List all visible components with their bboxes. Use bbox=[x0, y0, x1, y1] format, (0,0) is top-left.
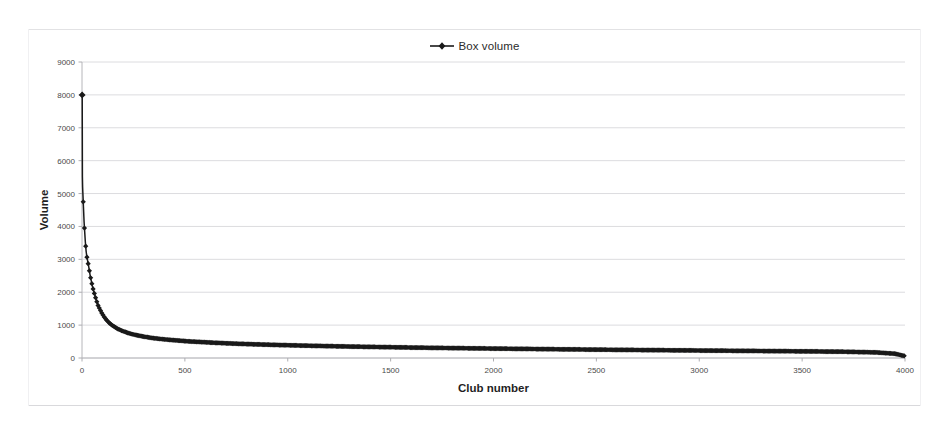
chart-gridlines bbox=[82, 62, 905, 358]
y-tick-label: 8000 bbox=[57, 91, 75, 100]
x-tick-label: 3000 bbox=[690, 366, 708, 375]
y-tick-label: 5000 bbox=[57, 190, 75, 199]
y-tick-label: 2000 bbox=[57, 288, 75, 297]
x-tick-label: 2000 bbox=[485, 366, 503, 375]
y-tick-label: 6000 bbox=[57, 157, 75, 166]
chart-x-tick-labels: 05001000150020002500300035004000 bbox=[80, 366, 915, 375]
x-tick-label: 1000 bbox=[279, 366, 297, 375]
chart-axis-lines bbox=[82, 62, 905, 358]
chart-canvas: 0100020003000400050006000700080009000 05… bbox=[0, 0, 949, 424]
y-tick-label: 3000 bbox=[57, 255, 75, 264]
y-tick-label: 7000 bbox=[57, 124, 75, 133]
y-axis-title: Volume bbox=[38, 190, 50, 231]
x-tick-label: 0 bbox=[80, 366, 85, 375]
x-tick-label: 500 bbox=[178, 366, 192, 375]
chart-screenshot: Box volume 01000200030004000500060007000… bbox=[0, 0, 949, 424]
y-tick-label: 9000 bbox=[57, 58, 75, 67]
x-tick-label: 4000 bbox=[896, 366, 914, 375]
chart-series-box-volume bbox=[79, 91, 907, 358]
chart-y-tick-labels: 0100020003000400050006000700080009000 bbox=[57, 58, 75, 363]
x-tick-label: 2500 bbox=[587, 366, 605, 375]
x-tick-label: 3500 bbox=[793, 366, 811, 375]
x-tick-label: 1500 bbox=[382, 366, 400, 375]
y-tick-label: 1000 bbox=[57, 321, 75, 330]
y-tick-label: 0 bbox=[71, 354, 76, 363]
chart-y-tick-marks bbox=[79, 62, 83, 358]
chart-plot-area: 0100020003000400050006000700080009000 05… bbox=[0, 0, 949, 424]
chart-x-tick-marks bbox=[82, 358, 905, 362]
y-tick-label: 4000 bbox=[57, 222, 75, 231]
x-axis-title: Club number bbox=[458, 382, 529, 394]
